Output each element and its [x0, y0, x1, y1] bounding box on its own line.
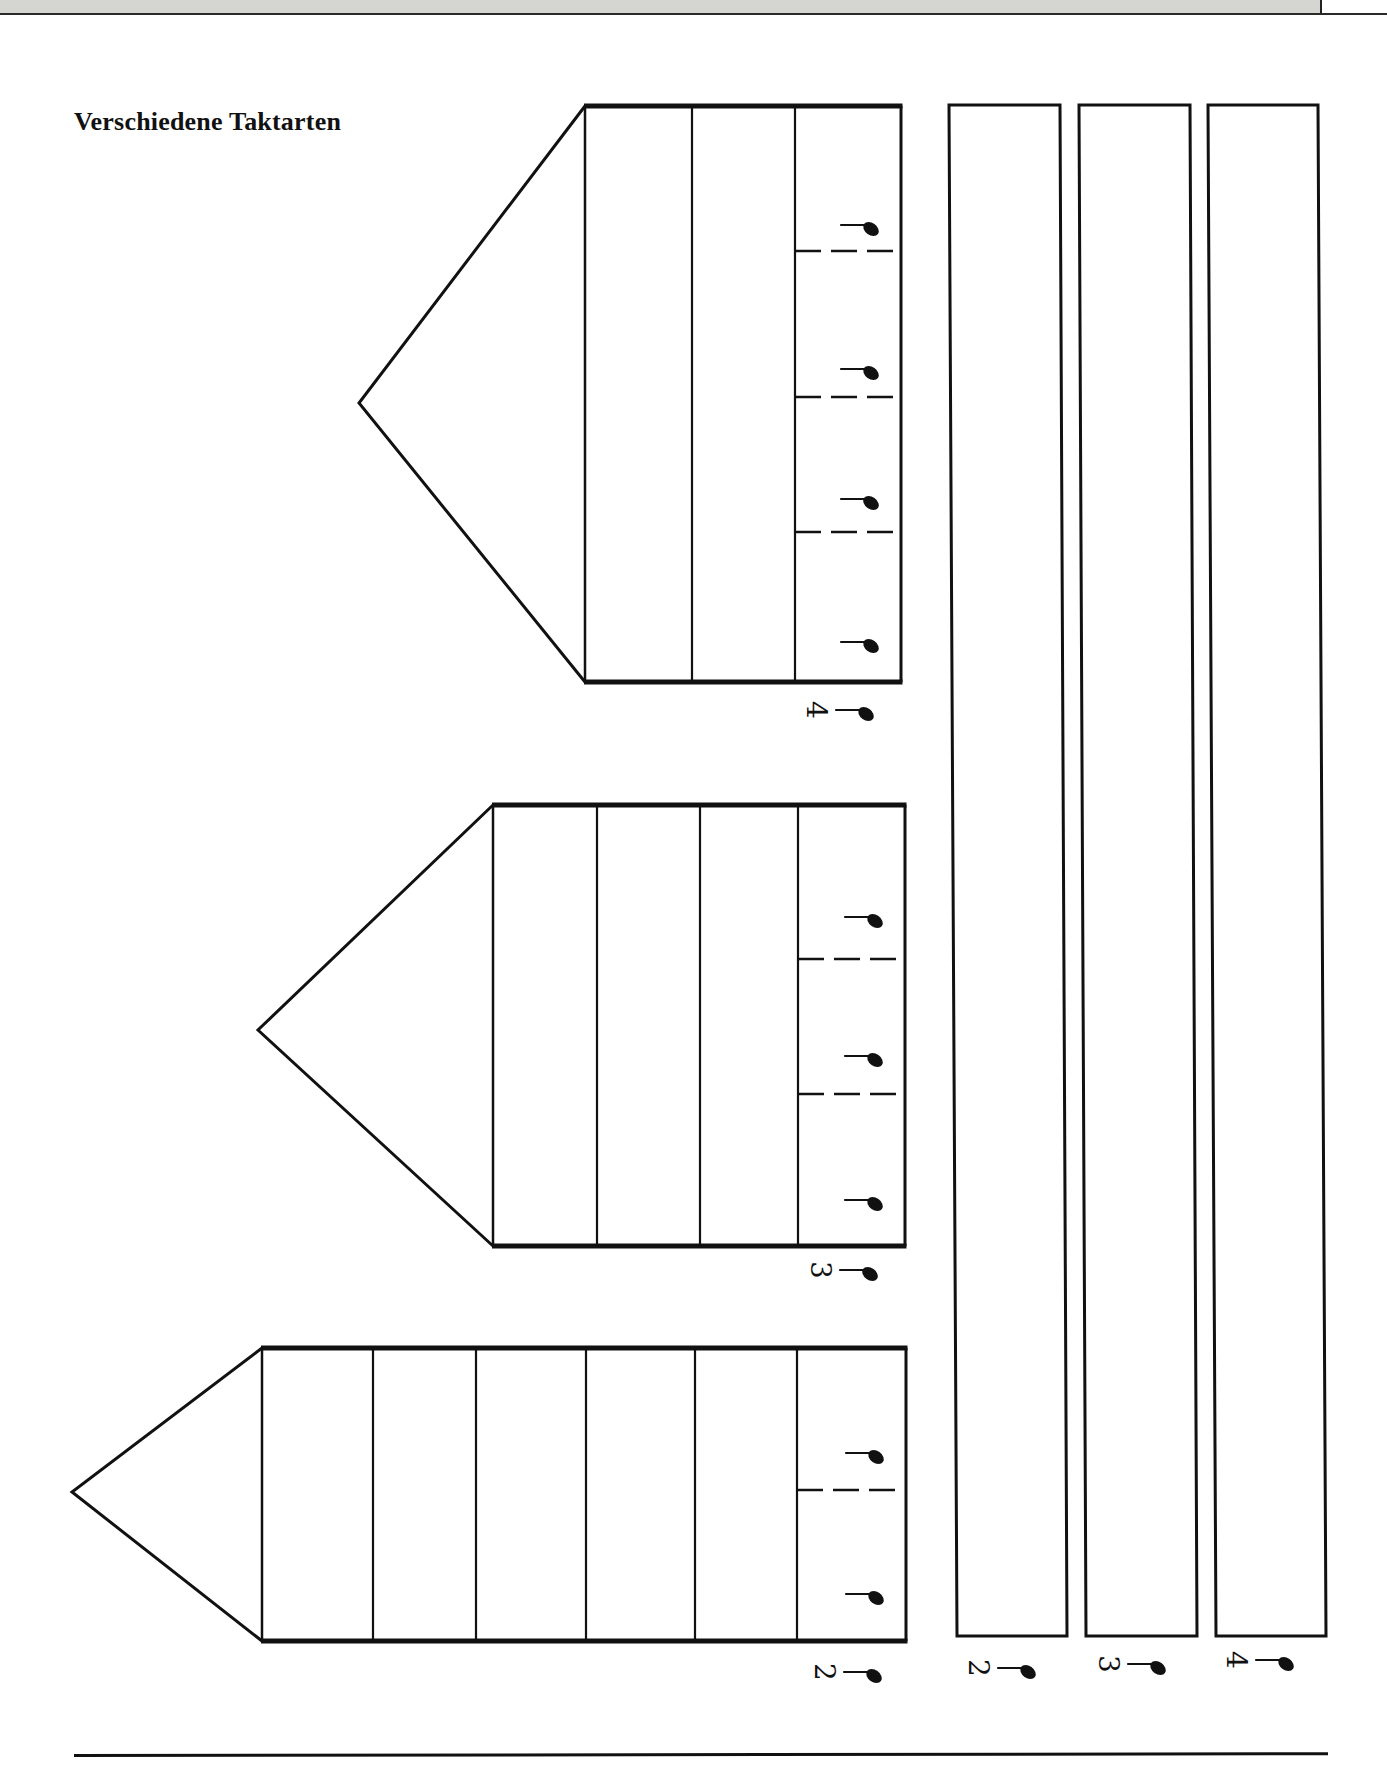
house-3-4: 3 — [258, 805, 907, 1284]
time-signature-numerator: 3 — [1092, 1655, 1125, 1673]
worksheet-drawing: 432 234 — [0, 0, 1387, 1774]
strip-2-4: 2 — [949, 105, 1067, 1682]
quarter-note-icon — [841, 363, 881, 383]
blank-strip-outline — [1208, 105, 1326, 1636]
blank-strip-outline — [1079, 105, 1197, 1636]
quarter-note-icon — [841, 219, 881, 239]
time-signature-numerator: 3 — [804, 1261, 837, 1279]
strips-group: 234 — [949, 105, 1326, 1682]
quarter-note-icon — [845, 911, 885, 931]
house-4-4: 4 — [359, 106, 903, 724]
time-signature-label-strip-3-4: 3 — [1092, 1655, 1169, 1678]
quarter-note-icon — [841, 493, 881, 513]
roof-outline — [258, 805, 493, 1246]
quarter-note-icon — [840, 1264, 880, 1284]
time-signature-numerator: 2 — [808, 1663, 841, 1681]
quarter-note-icon — [998, 1662, 1038, 1682]
quarter-note-icon — [845, 1194, 885, 1214]
roof-outline — [72, 1348, 262, 1641]
time-signature-numerator: 2 — [962, 1659, 995, 1677]
time-signature-label-house-3-4: 3 — [804, 1261, 881, 1284]
houses-group: 432 — [72, 106, 908, 1686]
quarter-note-icon — [846, 1447, 886, 1467]
strip-4-4: 4 — [1208, 105, 1326, 1674]
time-signature-label-house-4-4: 4 — [800, 701, 877, 724]
quarter-note-icon — [1128, 1658, 1168, 1678]
blank-strip-outline — [949, 105, 1067, 1636]
house-2-4: 2 — [72, 1348, 908, 1686]
quarter-note-icon — [844, 1666, 884, 1686]
quarter-note-icon — [1256, 1654, 1296, 1674]
time-signature-label-strip-2-4: 2 — [962, 1659, 1039, 1682]
strip-3-4: 3 — [1079, 105, 1197, 1678]
time-signature-numerator: 4 — [1220, 1651, 1253, 1669]
quarter-note-icon — [846, 1588, 886, 1608]
quarter-note-icon — [836, 704, 876, 724]
roof-outline — [359, 106, 585, 682]
time-signature-label-house-2-4: 2 — [808, 1663, 885, 1686]
time-signature-numerator: 4 — [800, 701, 833, 719]
quarter-note-icon — [845, 1050, 885, 1070]
quarter-note-icon — [841, 636, 881, 656]
time-signature-label-strip-4-4: 4 — [1220, 1651, 1297, 1674]
